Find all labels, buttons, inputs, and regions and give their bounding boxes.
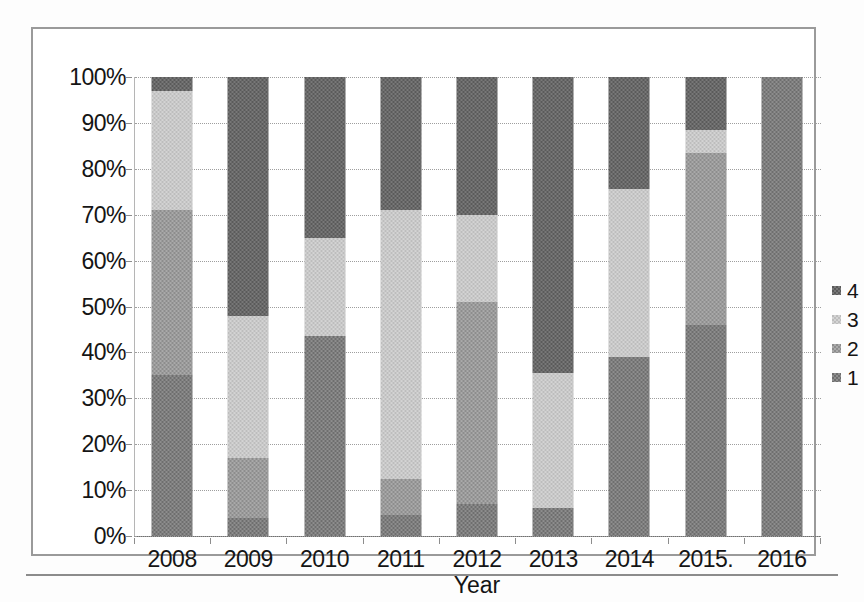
stacked-bar[interactable]	[456, 77, 497, 536]
bar-segment[interactable]	[685, 77, 726, 130]
stacked-bar[interactable]	[761, 77, 802, 536]
stacked-bar[interactable]	[609, 77, 650, 536]
stacked-bar[interactable]	[380, 77, 421, 536]
x-tick-label: 2008	[134, 546, 210, 573]
stacked-bar[interactable]	[304, 77, 345, 536]
stacked-bar[interactable]	[533, 77, 574, 536]
x-tick-label: 2012	[439, 546, 515, 573]
y-tick-label: 40%	[81, 339, 126, 366]
y-tick-mark	[126, 490, 132, 491]
bar-segment[interactable]	[304, 77, 345, 238]
stacked-bar[interactable]	[152, 77, 193, 536]
bar-segment[interactable]	[533, 77, 574, 373]
gridline	[135, 536, 821, 537]
x-tick-mark	[439, 538, 440, 544]
legend-swatch-icon	[832, 344, 841, 353]
bars-layer	[134, 77, 820, 536]
y-tick-mark	[126, 261, 132, 262]
bar-segment[interactable]	[609, 77, 650, 189]
legend-label: 4	[847, 280, 859, 301]
x-tick-mark	[286, 538, 287, 544]
bar-slot	[210, 77, 286, 536]
y-tick-mark	[126, 77, 132, 78]
y-tick-mark	[126, 444, 132, 445]
bar-slot	[668, 77, 744, 536]
x-tick-mark	[820, 538, 821, 544]
y-tick-label: 20%	[81, 431, 126, 458]
x-tick-label: 2014	[591, 546, 667, 573]
bar-segment[interactable]	[228, 77, 269, 316]
bar-segment[interactable]	[228, 316, 269, 458]
legend-item[interactable]: 1	[832, 363, 864, 392]
legend-label: 3	[847, 309, 859, 330]
x-tick-label: 2015.	[668, 546, 744, 573]
bar-segment[interactable]	[533, 373, 574, 508]
x-tick-mark	[134, 538, 135, 544]
y-tick-label: 80%	[81, 155, 126, 182]
bar-segment[interactable]	[761, 77, 802, 536]
bar-segment[interactable]	[152, 375, 193, 536]
y-tick-mark	[126, 123, 132, 124]
bar-slot	[363, 77, 439, 536]
bar-segment[interactable]	[380, 515, 421, 536]
bar-segment[interactable]	[609, 357, 650, 536]
y-tick-label: 10%	[81, 477, 126, 504]
bar-segment[interactable]	[380, 77, 421, 210]
bar-segment[interactable]	[456, 302, 497, 504]
bar-segment[interactable]	[685, 325, 726, 536]
y-tick-mark	[126, 169, 132, 170]
bar-segment[interactable]	[380, 479, 421, 516]
page-rule	[26, 574, 838, 576]
y-tick-mark	[126, 536, 132, 537]
bar-segment[interactable]	[304, 238, 345, 337]
x-tick-mark	[210, 538, 211, 544]
y-tick-label: 50%	[81, 293, 126, 320]
bar-segment[interactable]	[685, 130, 726, 153]
legend-item[interactable]: 3	[832, 305, 864, 334]
bar-segment[interactable]	[304, 336, 345, 536]
y-tick-mark	[126, 215, 132, 216]
bar-slot	[515, 77, 591, 536]
bar-segment[interactable]	[380, 210, 421, 479]
x-tick-label: 2011	[363, 546, 439, 573]
x-tick-label: 2016	[744, 546, 820, 573]
bar-slot	[286, 77, 362, 536]
legend: 4321	[832, 276, 864, 392]
bar-segment[interactable]	[609, 189, 650, 357]
bar-segment[interactable]	[685, 153, 726, 325]
bar-segment[interactable]	[152, 77, 193, 91]
legend-swatch-icon	[832, 315, 841, 324]
legend-label: 1	[847, 367, 859, 388]
x-tick-mark	[363, 538, 364, 544]
bar-segment[interactable]	[533, 508, 574, 536]
bar-segment[interactable]	[456, 215, 497, 302]
bar-segment[interactable]	[456, 504, 497, 536]
legend-item[interactable]: 4	[832, 276, 864, 305]
bar-segment[interactable]	[152, 91, 193, 210]
legend-swatch-icon	[832, 373, 841, 382]
legend-swatch-icon	[832, 286, 841, 295]
stacked-bar[interactable]	[228, 77, 269, 536]
x-tick-mark	[668, 538, 669, 544]
y-tick-label: 100%	[69, 64, 126, 91]
bar-slot	[134, 77, 210, 536]
y-axis: 100%90%80%70%60%50%40%30%20%10%0%	[68, 77, 126, 536]
bar-slot	[591, 77, 667, 536]
bar-segment[interactable]	[456, 77, 497, 215]
stacked-bar[interactable]	[685, 77, 726, 536]
bar-segment[interactable]	[228, 458, 269, 518]
bar-segment[interactable]	[228, 518, 269, 536]
legend-item[interactable]: 2	[832, 334, 864, 363]
x-tick-mark	[515, 538, 516, 544]
y-tick-mark	[126, 398, 132, 399]
bar-slot	[744, 77, 820, 536]
y-tick-label: 0%	[94, 523, 126, 550]
y-tick-mark	[126, 307, 132, 308]
x-tick-mark	[591, 538, 592, 544]
x-tick-mark	[744, 538, 745, 544]
legend-label: 2	[847, 338, 859, 359]
x-axis: 20082009201020112012201320142015.2016	[134, 538, 820, 572]
bar-slot	[439, 77, 515, 536]
x-tick-label: 2013	[515, 546, 591, 573]
bar-segment[interactable]	[152, 210, 193, 375]
